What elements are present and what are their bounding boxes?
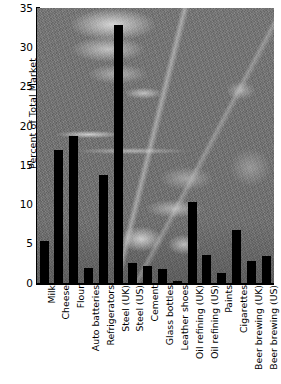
x-axis-tick-label: Oil refining (UK) [195, 285, 204, 359]
x-axis-tick-label: Leather shoes [180, 285, 189, 350]
x-axis-tick-label: Flour [76, 285, 85, 308]
y-axis-ticks: 05101520253035 [0, 0, 36, 384]
bar [54, 150, 63, 283]
bar [99, 175, 108, 283]
bar [143, 266, 152, 283]
x-axis-tick-label: Cigarettes [239, 285, 248, 333]
x-axis-tick-label: Auto batteries [91, 285, 100, 351]
x-axis-tick-label: Paints [224, 285, 233, 313]
y-axis-tick-label: 20 [20, 120, 36, 131]
bar-series [37, 8, 274, 283]
x-axis-tick-label: Glass bottles [165, 285, 174, 345]
y-axis-tick-label: 15 [20, 159, 36, 170]
y-axis-tick-label: 25 [20, 81, 36, 92]
bar [114, 25, 123, 283]
bar [262, 256, 271, 283]
bar [128, 263, 137, 283]
y-axis-tick-label: 5 [26, 238, 36, 249]
bar [158, 269, 167, 283]
x-axis-tick-label: Refrigerators [106, 285, 115, 346]
x-axis-tick-label: Beer brewing (UK) [254, 285, 263, 370]
bar [188, 202, 197, 283]
y-axis-tick-label: 35 [20, 2, 36, 13]
bar-chart-figure: Percent of Total Market 05101520253035 M… [0, 0, 281, 384]
y-axis-tick-label: 10 [20, 199, 36, 210]
bar [217, 273, 226, 283]
x-axis-tick-labels: MilkCheeseFlourAuto batteriesRefrigerato… [36, 285, 273, 384]
bar [69, 136, 78, 283]
y-axis-tick-label: 0 [26, 277, 36, 288]
bar [40, 241, 49, 283]
x-axis-tick-label: Steel (US) [135, 285, 144, 332]
x-axis-tick-label: Cement [150, 285, 159, 322]
x-axis-tick-label: Oil refining (US) [210, 285, 219, 359]
bar [232, 230, 241, 283]
plot-area [36, 8, 274, 283]
y-axis-tick-label: 30 [20, 42, 36, 53]
x-axis-tick-label: Steel (UK) [121, 285, 130, 332]
x-axis-tick-label: Milk [47, 285, 56, 304]
bar [202, 255, 211, 283]
bar [84, 268, 93, 283]
bar [247, 261, 256, 283]
x-axis-tick-label: Cheese [61, 285, 70, 319]
x-axis-tick-label: Beer brewing (US) [269, 285, 278, 370]
